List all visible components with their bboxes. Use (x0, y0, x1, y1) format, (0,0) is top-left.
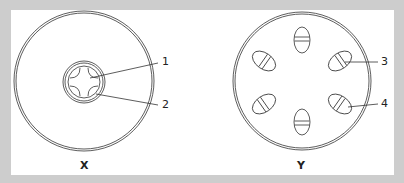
leader-line-2 (96, 94, 158, 105)
figure-x-inner-ring (63, 61, 105, 103)
leader-line-1 (90, 63, 158, 78)
label-1: 1 (162, 56, 169, 67)
caption-x: X (80, 160, 88, 171)
leader-line-4 (348, 104, 378, 107)
figure-y-ovals (249, 27, 355, 135)
figure-x-cross (70, 68, 98, 96)
figure-y-outer-ring (233, 12, 371, 150)
caption-y: Y (297, 160, 305, 171)
label-3: 3 (381, 56, 388, 67)
label-2: 2 (162, 99, 169, 110)
label-4: 4 (381, 98, 388, 109)
figure-x-outer-ring (14, 11, 154, 151)
diagram-canvas (0, 0, 404, 183)
